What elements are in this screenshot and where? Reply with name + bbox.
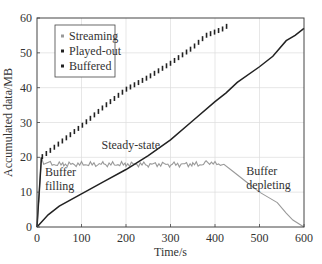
legend-label: Buffered bbox=[69, 59, 111, 73]
chart-container: 01002003004005006000102030405060 Steady-… bbox=[0, 0, 322, 264]
legend-label: Played-out bbox=[69, 44, 122, 58]
accumulated-data-chart: 01002003004005006000102030405060 Steady-… bbox=[0, 0, 322, 264]
legend-label: Streaming bbox=[69, 29, 118, 43]
x-tick-label: 0 bbox=[34, 231, 40, 245]
y-tick-label: 30 bbox=[20, 116, 32, 130]
annotation-label: filling bbox=[45, 179, 74, 193]
x-tick-label: 300 bbox=[162, 231, 180, 245]
legend: StreamingPlayed-outBuffered bbox=[55, 25, 122, 77]
annotation-label: depleting bbox=[246, 178, 291, 192]
legend-marker-buffered bbox=[61, 65, 64, 68]
legend-marker-streaming bbox=[61, 35, 64, 38]
annotations: Steady-stateBufferfillingBufferdepleting bbox=[45, 138, 291, 194]
y-tick-label: 0 bbox=[26, 220, 32, 234]
annotation-label: Buffer bbox=[246, 164, 277, 178]
y-axis-label: Accumulated data/MB bbox=[1, 68, 15, 177]
y-tick-label: 50 bbox=[20, 46, 32, 60]
y-tick-label: 40 bbox=[20, 81, 32, 95]
y-tick-label: 60 bbox=[20, 11, 32, 25]
x-tick-label: 600 bbox=[295, 231, 313, 245]
x-tick-label: 100 bbox=[73, 231, 91, 245]
x-tick-label: 400 bbox=[206, 231, 224, 245]
legend-marker-played-out bbox=[61, 50, 64, 53]
annotation-label: Steady-state bbox=[102, 138, 161, 152]
y-tick-label: 20 bbox=[20, 150, 32, 164]
x-axis-label: Time/s bbox=[154, 245, 187, 259]
x-tick-label: 200 bbox=[117, 231, 135, 245]
annotation-label: Buffer bbox=[45, 165, 76, 179]
y-tick-label: 10 bbox=[20, 185, 32, 199]
x-tick-label: 500 bbox=[251, 231, 269, 245]
